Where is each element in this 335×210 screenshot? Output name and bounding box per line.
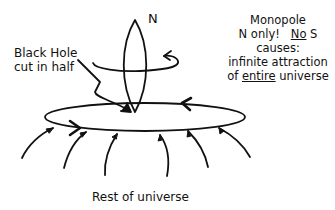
monopole-note-line2: N only! No S	[222, 27, 334, 41]
entire-underlined-text: entire	[242, 69, 276, 83]
of-text: of	[227, 69, 242, 83]
rest-of-universe-label: Rest of universe	[92, 191, 189, 204]
s-text: S	[306, 27, 317, 41]
no-underlined-text: No	[291, 27, 307, 41]
black-hole-label: Black Hole cut in half	[14, 46, 77, 74]
n-only-text: N only!	[239, 27, 280, 41]
black-hole-label-line2: cut in half	[14, 60, 77, 74]
field-lines	[22, 128, 250, 176]
north-pole-label: N	[148, 12, 158, 25]
monopole-note-line5: of entire universe	[222, 69, 334, 83]
equator-arrow-left-icon	[70, 121, 80, 135]
monopole-note-line3: causes:	[222, 41, 334, 55]
black-hole-label-line1: Black Hole	[14, 46, 77, 60]
monopole-note: Monopole N only! No S causes: infinite a…	[222, 13, 334, 83]
equator-ellipse	[45, 103, 245, 131]
black-hole-lens	[124, 20, 147, 112]
monopole-note-line4: infinite attraction	[222, 55, 334, 69]
monopole-note-line1: Monopole	[222, 13, 334, 27]
universe-text: universe	[276, 69, 329, 83]
